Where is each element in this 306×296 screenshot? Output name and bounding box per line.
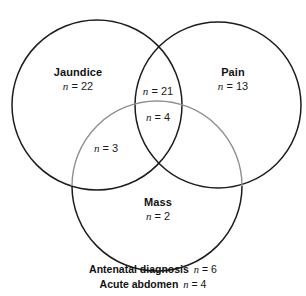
region-label-jaundice-pain-mass: n = 4 (128, 111, 188, 125)
set-title-mass: Mass (113, 196, 203, 210)
n-symbol: n (183, 279, 188, 290)
caption-row-antenatal-diagnosis: Antenatal diagnosisn = 6 (0, 262, 306, 277)
circle-jaundice (12, 20, 182, 190)
venn-circles (0, 0, 306, 296)
n-value: = 21 (151, 85, 173, 97)
n-value: = 3 (102, 142, 118, 154)
n-symbol: n (194, 264, 199, 275)
caption-row-acute-abdomen: Acute abdomenn = 4 (0, 277, 306, 292)
n-symbol: n (146, 210, 152, 222)
venn-diagram: Jaundice n = 22 Pain n = 13 Mass n = 2 n… (0, 0, 306, 296)
region-count-jaundice-pain: n = 21 (128, 85, 188, 99)
set-title-pain: Pain (186, 66, 280, 80)
set-count-pain: n = 13 (186, 80, 280, 94)
region-count-jaundice-pain-mass: n = 4 (128, 111, 188, 125)
n-value: = 2 (154, 210, 170, 222)
n-symbol: n (94, 142, 100, 154)
set-label-mass: Mass n = 2 (113, 196, 203, 224)
set-title-jaundice: Jaundice (30, 66, 126, 80)
set-count-mass: n = 2 (113, 210, 203, 224)
set-label-pain: Pain n = 13 (186, 66, 280, 94)
region-count-jaundice-mass: n = 3 (76, 142, 136, 156)
caption-block: Antenatal diagnosisn = 6 Acute abdomenn … (0, 262, 306, 292)
n-value: = 6 (202, 263, 217, 275)
n-symbol: n (63, 80, 69, 92)
n-value: = 13 (226, 80, 248, 92)
region-label-jaundice-pain: n = 21 (128, 85, 188, 99)
n-value: = 22 (71, 80, 93, 92)
n-value: = 4 (192, 278, 207, 290)
set-label-jaundice: Jaundice n = 22 (30, 66, 126, 94)
n-symbol: n (143, 85, 149, 97)
set-count-jaundice: n = 22 (30, 80, 126, 94)
region-label-jaundice-mass: n = 3 (76, 142, 136, 156)
n-symbol: n (146, 111, 152, 123)
n-symbol: n (218, 80, 224, 92)
caption-label: Acute abdomen (100, 278, 179, 290)
caption-label: Antenatal diagnosis (89, 263, 189, 275)
n-value: = 4 (154, 111, 170, 123)
